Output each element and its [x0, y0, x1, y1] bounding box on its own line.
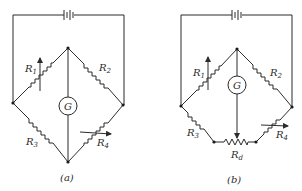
galvanometer-b: G — [228, 49, 246, 138]
resistor-r4-variable: R4 — [68, 105, 123, 162]
galvanometer-a: G — [59, 48, 77, 162]
resistor-r2: R2 — [68, 48, 123, 105]
resistor-r3: R3 — [181, 106, 214, 142]
junction-node — [212, 140, 215, 143]
bridge-circuit-b: R1 R2 R3 Rd R4 G — [179, 10, 293, 185]
junction-node — [179, 104, 182, 107]
junction-node — [121, 103, 124, 106]
bridge-circuit-a: R1 R2 R3 R4 G (a) — [11, 10, 124, 183]
r4-label: R4 — [275, 129, 288, 142]
junction-node — [66, 46, 69, 49]
r4-label: R4 — [96, 137, 109, 150]
junction-node — [235, 47, 238, 50]
junction-node — [11, 101, 14, 104]
wheatstone-bridge-figure: R1 R2 R3 R4 G (a) — [0, 0, 302, 191]
r3-label: R3 — [25, 136, 39, 149]
resistor-rd-slide-wire: Rd — [214, 139, 256, 162]
junction-node — [290, 105, 293, 108]
r3-label: R3 — [186, 127, 200, 140]
rd-label: Rd — [230, 149, 244, 162]
caption-b: (b) — [227, 174, 241, 185]
resistor-r1-variable: R1 — [13, 48, 68, 103]
junction-node — [254, 140, 257, 143]
junction-node — [66, 160, 69, 163]
resistor-r4-variable: R4 — [256, 107, 292, 142]
r2-label: R2 — [98, 62, 112, 75]
r1-label: R1 — [192, 67, 205, 80]
resistor-r1-variable: R1 — [181, 49, 237, 106]
caption-a: (a) — [60, 172, 74, 183]
galvanometer-label: G — [64, 101, 72, 112]
r2-label: R2 — [269, 67, 283, 80]
r1-label: R1 — [24, 63, 37, 76]
resistor-r2: R2 — [237, 49, 292, 107]
resistor-r3: R3 — [13, 103, 68, 162]
galvanometer-label: G — [233, 80, 241, 91]
